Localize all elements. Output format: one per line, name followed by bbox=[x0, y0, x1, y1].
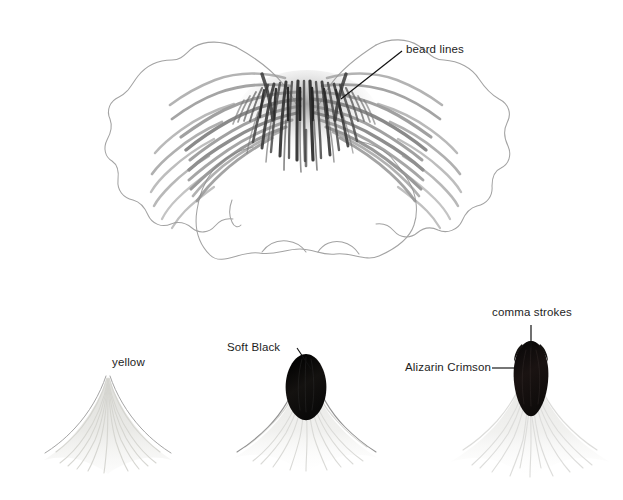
annotation-comma-strokes: comma strokes bbox=[492, 307, 572, 319]
illustration-canvas: beard lines comma strokes Alizarin Crims… bbox=[0, 0, 623, 500]
annotation-soft-black: Soft Black bbox=[227, 342, 280, 354]
study-alizarin-crimson-figure bbox=[0, 0, 623, 500]
annotation-yellow: yellow bbox=[112, 357, 145, 369]
annotation-alizarin-crimson: Alizarin Crimson bbox=[405, 362, 491, 374]
annotation-beard-lines: beard lines bbox=[406, 44, 464, 56]
